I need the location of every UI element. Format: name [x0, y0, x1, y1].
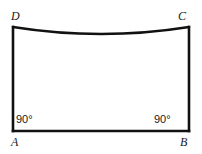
side-DC-curved — [13, 27, 189, 34]
vertex-label-d: D — [11, 10, 20, 22]
vertex-label-a: A — [11, 136, 18, 148]
geometry-figure: D C B A 90° 90° — [0, 0, 202, 154]
angle-mark-b: 90° — [154, 114, 171, 125]
angle-mark-a: 90° — [16, 114, 33, 125]
figure-canvas — [0, 0, 202, 154]
vertex-label-b: B — [180, 136, 187, 148]
vertex-label-c: C — [178, 10, 186, 22]
